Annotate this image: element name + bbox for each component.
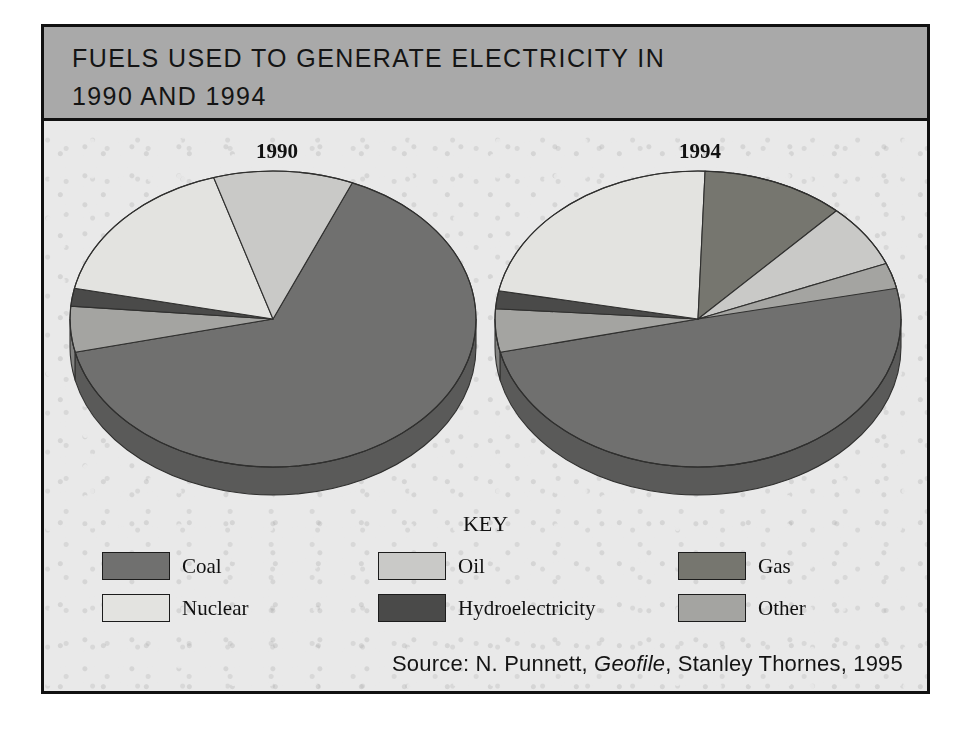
source-publication: Geofile (594, 651, 665, 676)
legend-item-hydroelectricity: Hydroelectricity (378, 594, 678, 622)
legend-swatch-coal (102, 552, 170, 580)
figure-frame: FUELS USED TO GENERATE ELECTRICITY IN 19… (41, 24, 930, 694)
legend-label-hydroelectricity: Hydroelectricity (458, 596, 596, 621)
chart-area: 1990 1994 KEY Coal Oil Gas Nucle (44, 121, 927, 691)
legend-label-oil: Oil (458, 554, 485, 579)
legend-swatch-other (678, 594, 746, 622)
legend-swatch-oil (378, 552, 446, 580)
pie-chart-1994 (491, 169, 911, 509)
legend-label-coal: Coal (182, 554, 222, 579)
key-title: KEY (44, 511, 927, 537)
legend-item-gas: Gas (678, 552, 902, 580)
legend-item-oil: Oil (378, 552, 678, 580)
legend-item-coal: Coal (102, 552, 378, 580)
source-suffix: , Stanley Thornes, 1995 (665, 651, 903, 676)
source-citation: Source: N. Punnett, Geofile, Stanley Tho… (392, 651, 903, 677)
legend-label-other: Other (758, 596, 806, 621)
title-line-1: FUELS USED TO GENERATE ELECTRICITY IN (72, 39, 927, 77)
pie-chart-1990 (66, 169, 486, 509)
pie-label-1990: 1990 (217, 139, 337, 164)
title-line-2: 1990 AND 1994 (72, 77, 927, 115)
legend-item-other: Other (678, 594, 902, 622)
pie-svg-1990 (66, 169, 486, 509)
pie-svg-1994 (491, 169, 911, 509)
legend: Coal Oil Gas Nuclear Hydroelectricity Ot… (102, 545, 902, 629)
legend-label-gas: Gas (758, 554, 791, 579)
legend-swatch-nuclear (102, 594, 170, 622)
legend-item-nuclear: Nuclear (102, 594, 378, 622)
pie-label-1994: 1994 (640, 139, 760, 164)
title-banner: FUELS USED TO GENERATE ELECTRICITY IN 19… (44, 27, 927, 121)
legend-label-nuclear: Nuclear (182, 596, 248, 621)
legend-swatch-gas (678, 552, 746, 580)
legend-swatch-hydroelectricity (378, 594, 446, 622)
source-prefix: Source: N. Punnett, (392, 651, 594, 676)
